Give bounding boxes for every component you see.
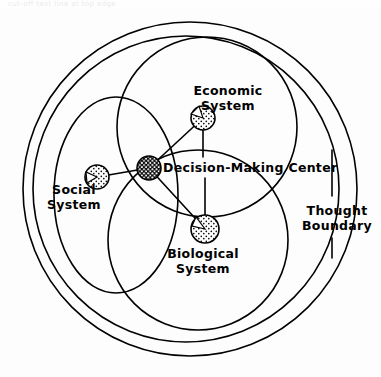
- social-label-line1: Social: [36, 182, 112, 197]
- thought-boundary-label: Thought Boundary: [297, 203, 377, 233]
- decision-label-line1: Decision-Making Center: [163, 160, 337, 175]
- biological-system-label: Biological System: [148, 246, 258, 276]
- diagram-canvas: cut-off text line at top edge Economic S…: [0, 0, 381, 377]
- economic-system-label: Economic System: [180, 83, 276, 113]
- top-cutoff-text: cut-off text line at top edge: [8, 0, 116, 8]
- biological-label-line2: System: [148, 261, 258, 276]
- thought-label-line1: Thought: [297, 203, 377, 218]
- economic-label-line2: System: [180, 98, 276, 113]
- social-system-label: Social System: [36, 182, 112, 212]
- economic-label-line1: Economic: [180, 83, 276, 98]
- thought-label-line2: Boundary: [297, 218, 377, 233]
- decision-center-node[interactable]: [137, 156, 161, 180]
- top-cutoff-strip: cut-off text line at top edge: [0, 0, 381, 9]
- social-label-line2: System: [36, 197, 112, 212]
- biological-label-line1: Biological: [148, 246, 258, 261]
- decision-center-label: Decision-Making Center: [163, 160, 337, 175]
